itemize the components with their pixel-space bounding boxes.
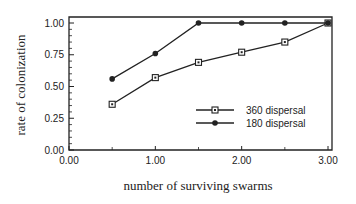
- square-marker-center: [198, 61, 200, 63]
- dot-marker-icon: [239, 20, 245, 26]
- legend-label: 180 dispersal: [246, 118, 305, 129]
- dot-marker-icon: [212, 120, 218, 126]
- dot-marker-icon: [196, 20, 202, 26]
- series-layer: [109, 20, 331, 107]
- y-axis-title: rate of colonization: [13, 34, 28, 136]
- series-180-dispersal: [109, 20, 330, 81]
- x-tick-label: 0.00: [59, 155, 79, 166]
- x-axis: 0.001.002.003.00: [59, 146, 338, 166]
- y-tick-label: 0.00: [45, 145, 65, 156]
- legend-label: 360 dispersal: [246, 105, 305, 116]
- x-tick-label: 1.00: [146, 155, 166, 166]
- y-tick-label: 0.50: [45, 81, 65, 92]
- square-marker-center: [111, 103, 113, 105]
- legend-item: 180 dispersal: [196, 118, 305, 129]
- dot-marker-icon: [109, 76, 115, 82]
- series-360-dispersal: [109, 20, 331, 107]
- square-marker-center: [241, 51, 243, 53]
- x-axis-title: number of surviving swarms: [123, 178, 272, 193]
- line-chart: 0.000.250.500.751.00 0.001.002.003.00 36…: [0, 0, 356, 204]
- x-tick-label: 2.00: [232, 155, 252, 166]
- plot-border: [69, 17, 332, 150]
- x-tick-label: 3.00: [318, 155, 338, 166]
- y-tick-label: 1.00: [45, 18, 65, 29]
- dot-marker-icon: [153, 51, 159, 57]
- legend-item: 360 dispersal: [196, 105, 305, 116]
- dot-marker-icon: [325, 20, 331, 26]
- y-tick-label: 0.75: [45, 49, 65, 60]
- legend: 360 dispersal180 dispersal: [196, 105, 305, 129]
- square-marker-center: [214, 109, 216, 111]
- y-tick-label: 0.25: [45, 113, 65, 124]
- square-marker-center: [154, 77, 156, 79]
- square-marker-center: [284, 41, 286, 43]
- dot-marker-icon: [282, 20, 288, 26]
- plot-frame: [69, 17, 332, 150]
- series-line: [112, 23, 328, 79]
- series-line: [112, 23, 328, 104]
